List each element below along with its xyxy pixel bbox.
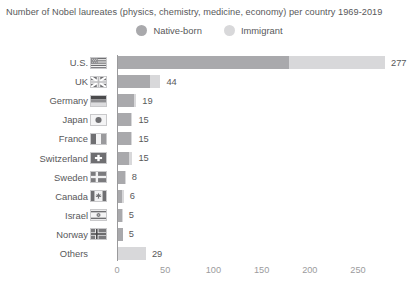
category-label: UK bbox=[75, 76, 88, 88]
legend-item[interactable]: Immigrant bbox=[224, 25, 283, 36]
stacked-bar[interactable] bbox=[118, 190, 124, 203]
bar-segment-immigrant[interactable] bbox=[289, 56, 385, 69]
category-label: Germany bbox=[49, 95, 88, 107]
bar-segment-immigrant[interactable] bbox=[134, 94, 136, 107]
us-flag-icon bbox=[90, 57, 107, 69]
bar-segment-immigrant[interactable] bbox=[131, 113, 132, 126]
category-label: Norway bbox=[56, 229, 88, 241]
bar-segment-immigrant[interactable] bbox=[118, 247, 146, 260]
category-label: Others bbox=[60, 248, 88, 260]
bar-segment-immigrant[interactable] bbox=[122, 209, 123, 222]
stacked-bar[interactable] bbox=[118, 113, 132, 126]
chart-title: Number of Nobel laureates (physics, chem… bbox=[6, 7, 413, 18]
stacked-bar[interactable] bbox=[118, 247, 146, 260]
bar-value-label: 277 bbox=[391, 57, 407, 69]
switzerland-flag-icon bbox=[90, 152, 107, 164]
stacked-bar[interactable] bbox=[118, 132, 132, 145]
chart-row[interactable]: Canada6 bbox=[0, 188, 419, 207]
bar-value-label: 6 bbox=[130, 190, 135, 202]
germany-flag-icon bbox=[90, 95, 107, 107]
chart-legend: Native-bornImmigrant bbox=[0, 25, 419, 36]
israel-flag-icon bbox=[90, 209, 107, 221]
canada-flag-icon bbox=[90, 190, 107, 202]
france-flag-icon bbox=[90, 133, 107, 145]
category-label: France bbox=[59, 133, 88, 145]
bar-value-label: 19 bbox=[142, 95, 152, 107]
category-label: U.S. bbox=[70, 57, 88, 69]
bar-segment-native-born[interactable] bbox=[118, 152, 129, 165]
category-label: Israel bbox=[65, 210, 88, 222]
bar-segment-native-born[interactable] bbox=[118, 171, 125, 184]
bar-segment-native-born[interactable] bbox=[118, 94, 134, 107]
bar-value-label: 5 bbox=[129, 228, 134, 240]
bar-segment-native-born[interactable] bbox=[118, 113, 131, 126]
x-axis-tick-label: 0 bbox=[114, 265, 119, 275]
bar-segment-native-born[interactable] bbox=[118, 75, 150, 88]
stacked-bar[interactable] bbox=[118, 209, 123, 222]
x-axis-tick-label: 250 bbox=[350, 265, 365, 275]
chart-row[interactable]: Israel5 bbox=[0, 207, 419, 226]
legend-label: Native-born bbox=[153, 25, 201, 36]
chart-row[interactable]: France15 bbox=[0, 130, 419, 149]
nobel-laureates-bar-chart: Number of Nobel laureates (physics, chem… bbox=[0, 0, 419, 291]
chart-row[interactable]: Sweden8 bbox=[0, 169, 419, 188]
chart-row[interactable]: UK44 bbox=[0, 73, 419, 92]
legend-label: Immigrant bbox=[241, 25, 283, 36]
chart-row[interactable]: U.S.277 bbox=[0, 54, 419, 73]
chart-row[interactable]: Switzerland15 bbox=[0, 150, 419, 169]
bar-segment-native-born[interactable] bbox=[118, 56, 289, 69]
norway-flag-icon bbox=[90, 228, 107, 240]
category-label: Sweden bbox=[54, 172, 88, 184]
bar-segment-immigrant[interactable] bbox=[150, 75, 161, 88]
category-label: Switzerland bbox=[40, 153, 88, 165]
legend-swatch-immigrant bbox=[224, 25, 235, 36]
bar-segment-immigrant[interactable] bbox=[122, 190, 124, 203]
bar-segment-immigrant[interactable] bbox=[125, 171, 126, 184]
bar-value-label: 44 bbox=[166, 76, 176, 88]
category-label: Canada bbox=[55, 191, 88, 203]
chart-row[interactable]: Japan15 bbox=[0, 111, 419, 130]
bar-value-label: 5 bbox=[129, 209, 134, 221]
x-axis-tick-label: 200 bbox=[302, 265, 317, 275]
bar-segment-immigrant[interactable] bbox=[129, 152, 133, 165]
plot-area: U.S.277UK44Germany19Japan15France15Switz… bbox=[0, 52, 419, 267]
stacked-bar[interactable] bbox=[118, 94, 136, 107]
japan-flag-icon bbox=[90, 114, 107, 126]
x-axis-tick-label: 100 bbox=[206, 265, 221, 275]
chart-row[interactable]: Norway5 bbox=[0, 226, 419, 245]
x-axis-tick-label: 150 bbox=[254, 265, 269, 275]
bar-value-label: 29 bbox=[152, 248, 162, 260]
stacked-bar[interactable] bbox=[118, 171, 126, 184]
sweden-flag-icon bbox=[90, 171, 107, 183]
x-axis: 050100150200250 bbox=[0, 265, 419, 285]
chart-row[interactable]: Others29 bbox=[0, 245, 419, 264]
legend-item[interactable]: Native-born bbox=[136, 25, 201, 36]
bar-value-label: 15 bbox=[138, 133, 148, 145]
bar-value-label: 15 bbox=[138, 152, 148, 164]
x-axis-tick-label: 50 bbox=[160, 265, 170, 275]
legend-swatch-native-born bbox=[136, 25, 147, 36]
category-label: Japan bbox=[62, 114, 88, 126]
stacked-bar[interactable] bbox=[118, 56, 385, 69]
bar-value-label: 8 bbox=[132, 171, 137, 183]
uk-flag-icon bbox=[90, 76, 107, 88]
bar-segment-native-born[interactable] bbox=[118, 228, 123, 241]
bar-segment-immigrant[interactable] bbox=[131, 132, 132, 145]
stacked-bar[interactable] bbox=[118, 152, 132, 165]
bar-segment-native-born[interactable] bbox=[118, 132, 131, 145]
chart-row[interactable]: Germany19 bbox=[0, 92, 419, 111]
stacked-bar[interactable] bbox=[118, 228, 123, 241]
bar-value-label: 15 bbox=[138, 114, 148, 126]
stacked-bar[interactable] bbox=[118, 75, 160, 88]
